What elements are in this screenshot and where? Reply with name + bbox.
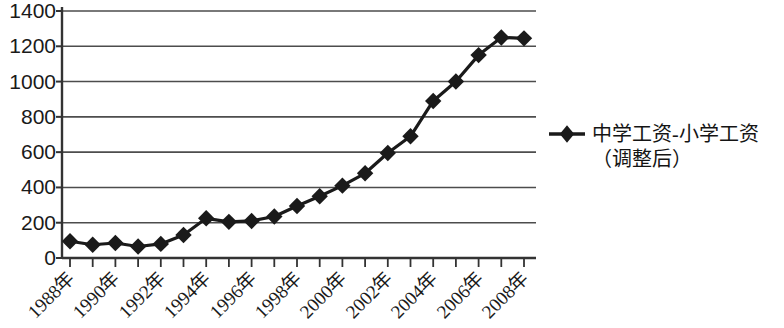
- legend-label-line2: （调整后）: [592, 147, 759, 172]
- x-axis-tick-label: 2008年: [474, 264, 533, 323]
- x-axis-tick-label: 2004年: [383, 264, 442, 323]
- diamond-marker-icon: [548, 122, 586, 146]
- x-axis-tick-label: 2000年: [292, 264, 351, 323]
- x-axis-tick-label: 2002年: [338, 264, 397, 323]
- x-axis-tick-label: 2006年: [429, 264, 488, 323]
- x-axis-tick-label: 1994年: [156, 264, 215, 323]
- x-axis-tick-label: 1990年: [65, 264, 124, 323]
- x-axis-tick-label: 1998年: [247, 264, 306, 323]
- x-axis-tick-label: 1988年: [20, 264, 79, 323]
- legend-label-line1: 中学工资-小学工资: [592, 123, 759, 145]
- x-axis-tick-label: 1992年: [111, 264, 170, 323]
- legend-label: 中学工资-小学工资 （调整后）: [592, 122, 759, 172]
- line-chart: 1400120010008006004002000 1988年1990年1992…: [0, 0, 784, 328]
- chart-legend: 中学工资-小学工资 （调整后）: [548, 122, 759, 172]
- x-axis-tick-label: 1996年: [202, 264, 261, 323]
